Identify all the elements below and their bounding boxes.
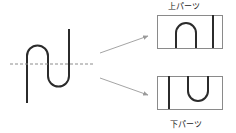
s-curve-shape [27,29,69,103]
diagram-graphics [0,0,236,133]
upper-part-panel [158,15,223,49]
lower-parts-label: 下パーツ [170,120,202,130]
upper-parts-label: 上パーツ [168,2,200,12]
lower-panel-frame [158,77,223,110]
arrow-to-upper [100,36,148,53]
diagram-canvas: 上パーツ 下パーツ [0,0,236,133]
lower-part-panel [158,76,223,110]
arrow-to-lower [100,78,148,95]
